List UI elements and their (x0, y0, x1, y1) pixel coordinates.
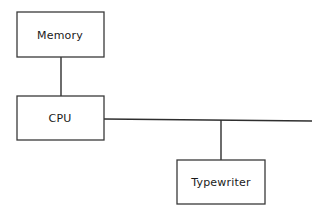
node-label-typewriter: Typewriter (191, 176, 250, 189)
connection-cpu-to-bus (104, 119, 312, 121)
node-label-memory: Memory (37, 29, 83, 42)
node-label-cpu: CPU (49, 112, 72, 125)
diagram-canvas: Memory CPU Typewriter (0, 0, 324, 220)
